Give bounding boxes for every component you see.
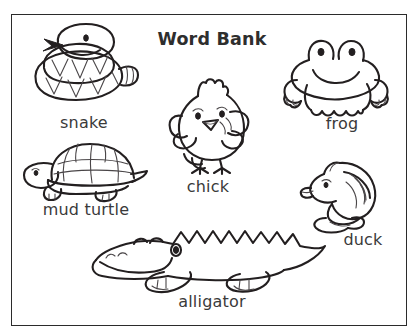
label-frog: frog bbox=[292, 114, 392, 133]
frog-icon bbox=[283, 38, 389, 118]
label-mud-turtle: mud turtle bbox=[16, 200, 156, 219]
turtle-icon bbox=[18, 140, 148, 202]
label-duck: duck bbox=[318, 230, 408, 249]
label-chick: chick bbox=[158, 177, 258, 196]
label-snake: snake bbox=[24, 113, 144, 132]
snake-icon bbox=[22, 22, 142, 114]
worksheet-page: Word Bank bbox=[0, 0, 416, 334]
label-alligator: alligator bbox=[152, 292, 272, 311]
alligator-icon bbox=[78, 222, 328, 294]
page-title: Word Bank bbox=[152, 29, 272, 49]
chick-icon bbox=[164, 78, 258, 174]
